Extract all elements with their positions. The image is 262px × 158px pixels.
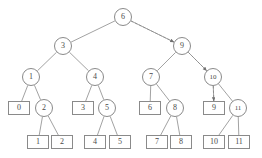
tree-node-leaf: 1 bbox=[27, 135, 49, 149]
tree-node-internal: 3 bbox=[54, 37, 72, 55]
tree-edge bbox=[71, 21, 115, 42]
tree-node-internal: 11 bbox=[229, 99, 247, 117]
node-label: 2 bbox=[60, 138, 64, 146]
node-label: 7 bbox=[155, 138, 159, 146]
tree-node-internal: 8 bbox=[166, 99, 184, 117]
tree-node-internal: 7 bbox=[142, 68, 160, 86]
node-label: 4 bbox=[93, 138, 97, 146]
tree-node-leaf: 8 bbox=[170, 135, 192, 149]
node-label: 10 bbox=[210, 138, 218, 146]
tree-edge bbox=[97, 116, 104, 135]
node-label: 5 bbox=[105, 104, 109, 112]
tree-edge bbox=[219, 84, 233, 101]
node-label: 11 bbox=[235, 105, 242, 112]
node-label: 1 bbox=[36, 138, 40, 146]
tree-node-leaf: 0 bbox=[8, 101, 30, 115]
tree-node-internal: 2 bbox=[35, 99, 53, 117]
node-label: 10 bbox=[210, 74, 217, 81]
node-label: 6 bbox=[148, 104, 152, 112]
binary-tree-diagram: 639147100235689111245781011 bbox=[0, 0, 262, 158]
node-label: 8 bbox=[179, 138, 183, 146]
node-label: 1 bbox=[29, 73, 33, 81]
node-label: 3 bbox=[81, 104, 85, 112]
tree-node-leaf: 10 bbox=[203, 135, 225, 149]
traversal-arrows bbox=[131, 21, 214, 101]
node-label: 9 bbox=[180, 42, 184, 50]
tree-edge bbox=[177, 117, 180, 135]
tree-edge bbox=[157, 52, 175, 70]
node-label: 5 bbox=[118, 138, 122, 146]
node-label: 7 bbox=[149, 73, 153, 81]
tree-edge bbox=[39, 117, 42, 135]
tree-node-leaf: 3 bbox=[72, 101, 94, 115]
tree-node-leaf: 4 bbox=[84, 135, 106, 149]
node-label: 6 bbox=[121, 13, 125, 21]
tree-edge bbox=[34, 85, 40, 99]
tree-edge bbox=[22, 85, 28, 101]
tree-edge bbox=[48, 116, 58, 135]
tree-edge bbox=[86, 85, 92, 101]
tree-node-internal: 6 bbox=[114, 8, 132, 26]
node-label: 2 bbox=[42, 104, 46, 112]
tree-node-leaf: 7 bbox=[146, 135, 168, 149]
node-label: 9 bbox=[212, 104, 216, 112]
tree-edge bbox=[110, 116, 117, 135]
tree-edge bbox=[219, 115, 233, 135]
tree-edge bbox=[37, 52, 56, 70]
tree-node-internal: 4 bbox=[86, 68, 104, 86]
tree-node-internal: 9 bbox=[173, 37, 191, 55]
node-label: 0 bbox=[17, 104, 21, 112]
tree-node-internal: 5 bbox=[98, 99, 116, 117]
tree-edge bbox=[188, 52, 206, 70]
node-label: 11 bbox=[235, 138, 243, 146]
node-label: 8 bbox=[173, 104, 177, 112]
tree-edge bbox=[161, 116, 171, 135]
tree-node-leaf: 5 bbox=[109, 135, 131, 149]
tree-edge bbox=[69, 52, 88, 70]
tree-node-leaf: 6 bbox=[139, 101, 161, 115]
node-label: 4 bbox=[93, 73, 97, 81]
tree-node-leaf: 11 bbox=[228, 135, 250, 149]
tree-edge bbox=[157, 84, 170, 101]
tree-node-leaf: 2 bbox=[51, 135, 73, 149]
tree-edge bbox=[238, 117, 239, 135]
tree-node-leaf: 9 bbox=[203, 101, 225, 115]
tree-node-internal: 1 bbox=[22, 68, 40, 86]
tree-node-internal: 10 bbox=[204, 68, 222, 86]
tree-edge bbox=[98, 85, 104, 99]
node-label: 3 bbox=[61, 42, 65, 50]
